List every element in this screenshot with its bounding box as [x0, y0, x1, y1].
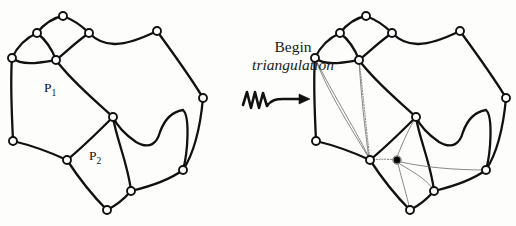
- figure-canvas: .thickEdge{fill:none;stroke:#111;stroke-…: [0, 0, 516, 226]
- face-label-p1-sub: 1: [52, 88, 57, 98]
- face-label-p2-text: P: [89, 148, 97, 163]
- graph-illustration: .thickEdge{fill:none;stroke:#111;stroke-…: [0, 0, 516, 226]
- caption-line-1: Begin: [233, 38, 353, 56]
- p2-center-vertex: [393, 156, 401, 164]
- squiggly-arrow-right-icon: [243, 92, 310, 108]
- caption-line-2: triangulation: [233, 56, 353, 74]
- face-label-p1: P1: [44, 80, 56, 98]
- face-label-p2-sub: 2: [97, 156, 102, 166]
- face-label-p2: P2: [89, 148, 101, 166]
- left-graph-edges: [11, 16, 203, 210]
- face-label-p1-text: P: [44, 80, 52, 95]
- caption: Begin triangulation: [233, 38, 353, 75]
